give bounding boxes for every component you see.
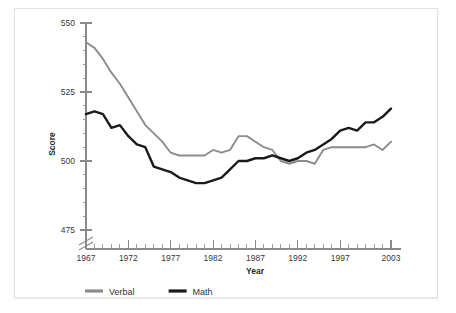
y-tick-label: 500 bbox=[61, 156, 75, 166]
x-tick-label: 1977 bbox=[161, 253, 180, 263]
x-tick-label: 1972 bbox=[119, 253, 138, 263]
series-line-math bbox=[86, 109, 391, 184]
x-tick-label: 1997 bbox=[331, 253, 350, 263]
legend-label-math: Math bbox=[193, 287, 213, 297]
x-axis: 19671972197719821987199219972003 bbox=[77, 240, 401, 263]
legend-label-verbal: Verbal bbox=[109, 287, 135, 297]
x-axis-title: Year bbox=[246, 266, 265, 276]
y-axis: 475500525550 bbox=[61, 18, 93, 250]
chart-figure-frame: 475500525550 196719721977198219871992199… bbox=[14, 8, 438, 298]
line-chart: 475500525550 196719721977198219871992199… bbox=[15, 9, 437, 297]
x-tick-label: 1982 bbox=[204, 253, 223, 263]
x-tick-label: 2003 bbox=[382, 253, 401, 263]
y-tick-label: 525 bbox=[61, 87, 75, 97]
x-tick-label: 1987 bbox=[246, 253, 265, 263]
y-tick-label: 550 bbox=[61, 18, 75, 28]
y-tick-label: 475 bbox=[61, 225, 75, 235]
x-tick-label: 1992 bbox=[288, 253, 307, 263]
chart-legend: VerbalMath bbox=[85, 287, 213, 297]
series-line-verbal bbox=[86, 42, 391, 163]
y-axis-title: Score bbox=[47, 132, 57, 156]
chart-series-group bbox=[86, 42, 391, 183]
x-tick-label: 1967 bbox=[77, 253, 96, 263]
